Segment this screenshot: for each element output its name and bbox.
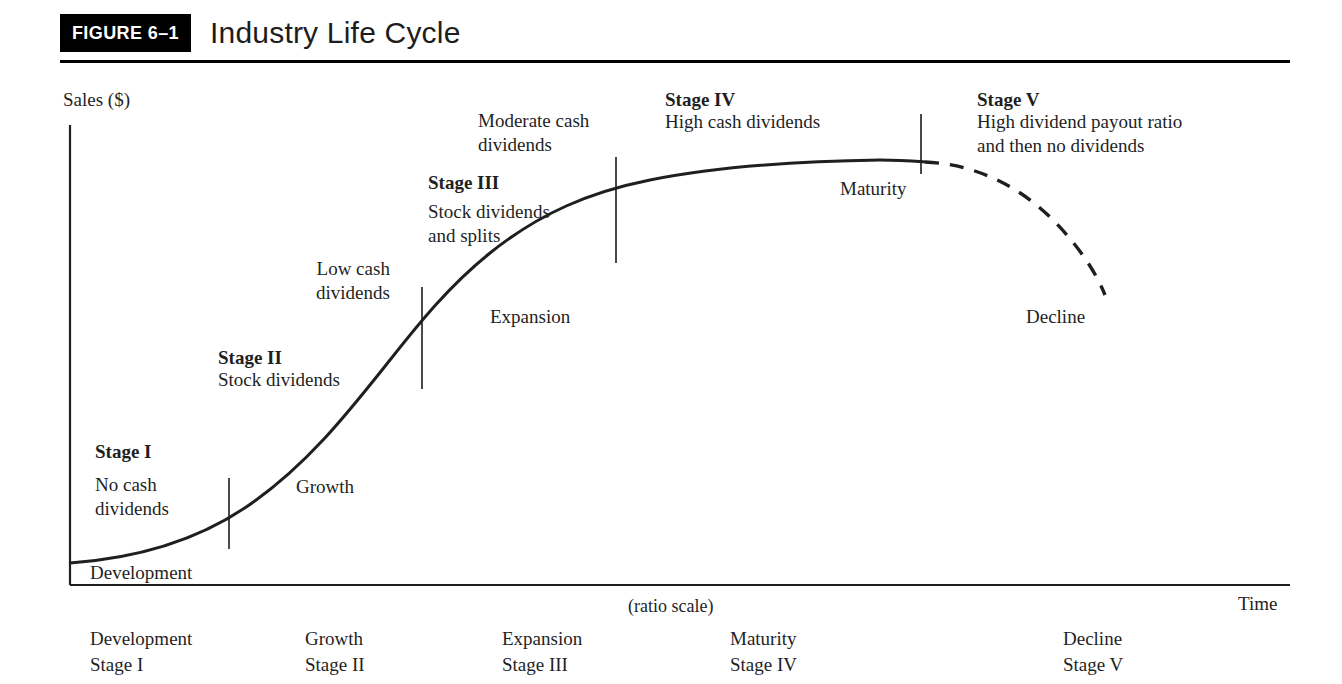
phase-label-decline: Decline bbox=[1026, 305, 1085, 329]
x-axis-label: Time bbox=[1238, 592, 1277, 616]
legend-item-growth: Growth Stage II bbox=[305, 626, 365, 678]
legend-item-decline: Decline Stage V bbox=[1063, 626, 1123, 678]
stage-1-description: No cash dividends bbox=[95, 473, 169, 521]
x-axis-scale-note: (ratio scale) bbox=[628, 594, 713, 618]
legend-item-expansion: Expansion Stage III bbox=[502, 626, 582, 678]
y-axis-label: Sales ($) bbox=[63, 88, 130, 112]
figure-page: FIGURE 6–1 Industry Life Cycle Sales ($)… bbox=[0, 0, 1342, 684]
stage-5-description: High dividend payout ratio and then no d… bbox=[977, 110, 1182, 158]
stage-legend-row: Development Stage I Growth Stage II Expa… bbox=[0, 626, 1342, 682]
legend-phase-name: Maturity bbox=[730, 628, 797, 649]
legend-item-maturity: Maturity Stage IV bbox=[730, 626, 797, 678]
stage-1-title: Stage I bbox=[95, 440, 151, 464]
legend-phase-name: Development bbox=[90, 628, 192, 649]
phase-label-growth: Growth bbox=[296, 475, 354, 499]
legend-phase-name: Expansion bbox=[502, 628, 582, 649]
chart-canvas: Sales ($) Stage I No cash dividends Stag… bbox=[0, 0, 1342, 684]
stage-3-title: Stage III bbox=[428, 171, 499, 195]
stage-2-description: Stock dividends bbox=[218, 368, 340, 392]
legend-stage-name: Stage I bbox=[90, 652, 192, 678]
stage-3-description: Stock dividends and splits bbox=[428, 200, 550, 248]
legend-item-development: Development Stage I bbox=[90, 626, 192, 678]
note-moderate-cash-dividends: Moderate cash dividends bbox=[478, 109, 589, 157]
sales-curve-dashed bbox=[925, 162, 1105, 295]
phase-label-development: Development bbox=[90, 561, 192, 585]
legend-phase-name: Decline bbox=[1063, 628, 1122, 649]
phase-label-maturity: Maturity bbox=[840, 177, 907, 201]
legend-stage-name: Stage V bbox=[1063, 652, 1123, 678]
stage-5-title: Stage V bbox=[977, 88, 1039, 112]
stage-4-title: Stage IV bbox=[665, 88, 735, 112]
legend-stage-name: Stage IV bbox=[730, 652, 797, 678]
phase-label-expansion: Expansion bbox=[490, 305, 570, 329]
legend-stage-name: Stage III bbox=[502, 652, 582, 678]
note-low-cash-dividends: Low cash dividends bbox=[316, 257, 390, 305]
legend-phase-name: Growth bbox=[305, 628, 363, 649]
stage-4-description: High cash dividends bbox=[665, 110, 820, 134]
stage-2-title: Stage II bbox=[218, 346, 282, 370]
legend-stage-name: Stage II bbox=[305, 652, 365, 678]
